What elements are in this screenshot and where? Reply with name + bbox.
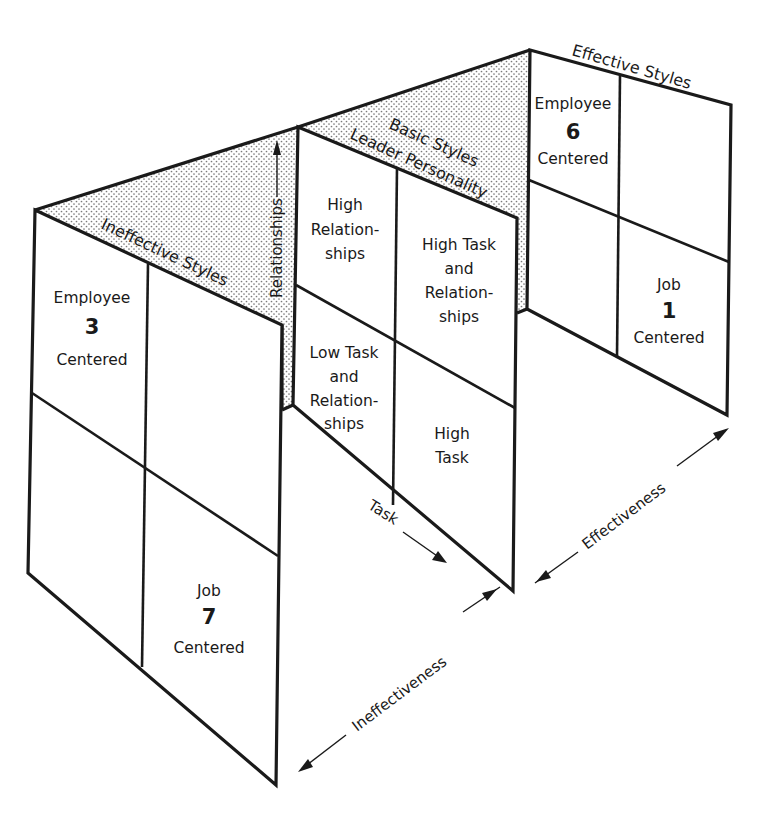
svg-text:Job: Job (656, 276, 681, 294)
ineffectiveness-axis-label: Ineffectiveness (349, 652, 451, 735)
svg-text:Task: Task (434, 449, 468, 467)
svg-text:Employee: Employee (54, 289, 131, 307)
arrow-up-right-icon (713, 428, 729, 441)
arrow-left-down-icon (536, 570, 551, 582)
svg-text:Relation-: Relation- (311, 221, 380, 239)
svg-text:and: and (329, 368, 358, 386)
svg-text:1: 1 (662, 299, 677, 323)
svg-text:Relation-: Relation- (310, 392, 379, 410)
svg-text:High: High (327, 196, 363, 214)
svg-text:6: 6 (566, 120, 581, 144)
svg-text:High: High (434, 425, 470, 443)
task-axis-label: Task (364, 496, 402, 529)
arrow-down-left-icon (298, 759, 313, 772)
tri-dimensional-leader-effectiveness-diagram: Ineffective Styles Basic Styles Leader P… (0, 0, 759, 814)
svg-text:ships: ships (324, 415, 364, 433)
svg-text:7: 7 (202, 605, 217, 629)
svg-text:Centered: Centered (537, 150, 608, 168)
svg-text:Centered: Centered (56, 351, 127, 369)
svg-text:3: 3 (85, 315, 100, 339)
svg-text:ships: ships (325, 245, 365, 263)
svg-text:ships: ships (439, 308, 479, 326)
svg-text:High Task: High Task (422, 236, 496, 254)
effectiveness-axis: Effectiveness (535, 428, 729, 583)
svg-text:Employee: Employee (535, 95, 612, 113)
svg-text:Centered: Centered (633, 329, 704, 347)
svg-text:Relation-: Relation- (425, 284, 494, 302)
svg-text:Job: Job (196, 582, 221, 600)
effectiveness-axis-label: Effectiveness (579, 479, 670, 554)
svg-text:and: and (444, 260, 473, 278)
svg-text:Centered: Centered (173, 639, 244, 657)
arrow-down-left-icon (482, 589, 497, 601)
relationships-axis-label: Relationships (268, 198, 286, 298)
ineffectiveness-axis: Ineffectiveness (298, 587, 500, 772)
arrow-down-right-icon (432, 551, 447, 563)
svg-text:Low Task: Low Task (310, 344, 379, 362)
